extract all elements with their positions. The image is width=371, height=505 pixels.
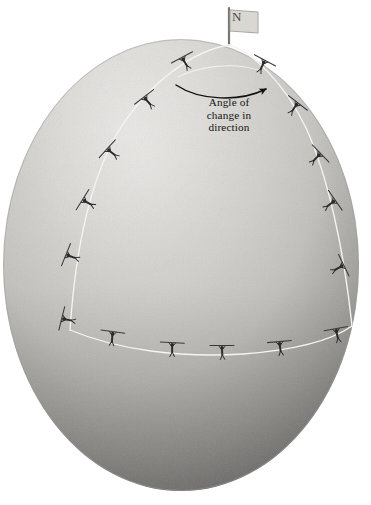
sphere-body <box>0 0 371 505</box>
annotation-line-1: Angle of <box>186 96 272 109</box>
angle-annotation-text: Angle of change in direction <box>186 96 272 134</box>
scene-canvas <box>0 0 371 505</box>
annotation-line-3: direction <box>186 121 272 134</box>
sphere-illustration: N Angle of change in direction <box>0 0 371 505</box>
sphere-texture <box>0 0 371 505</box>
annotation-line-2: change in <box>186 109 272 122</box>
fiber-speckle <box>0 0 371 505</box>
flag-letter-n: N <box>232 9 241 25</box>
